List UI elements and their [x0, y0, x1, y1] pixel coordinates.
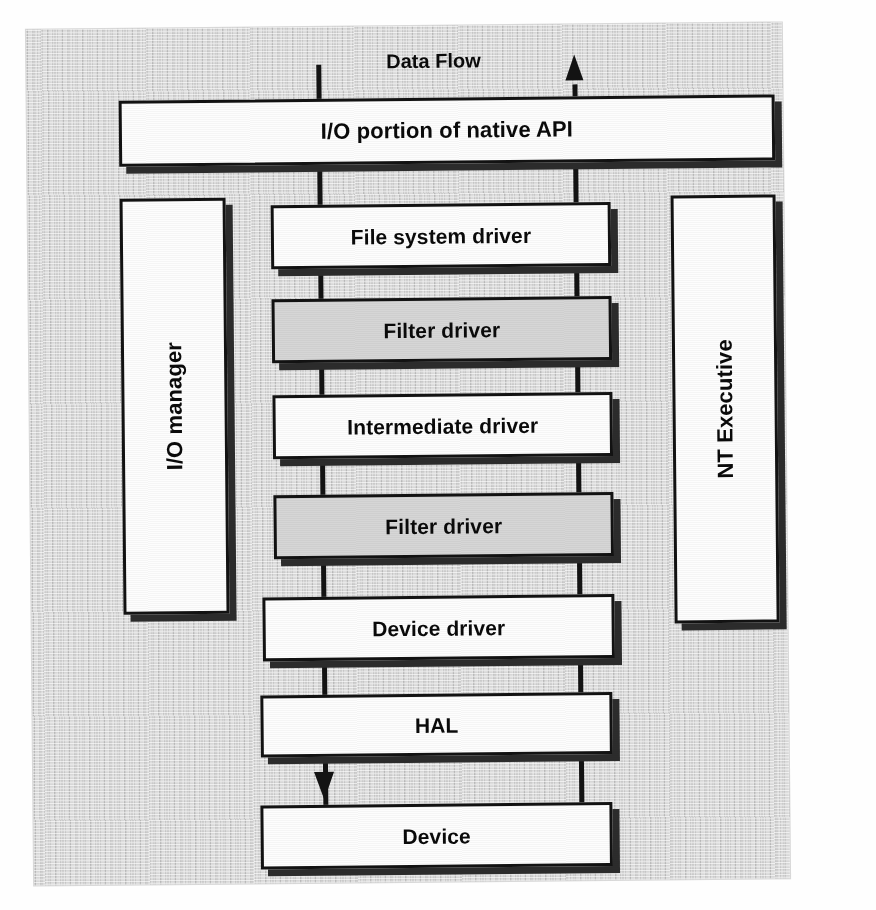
scanned-page: Data Flow I/O portion of native API I/O … [26, 22, 790, 885]
box-intermediate-driver[interactable]: Intermediate driver [272, 392, 613, 459]
data-flow-down-arrow-icon [314, 772, 334, 800]
box-device[interactable]: Device [260, 802, 613, 869]
diagram-layer: Data Flow I/O portion of native API I/O … [26, 22, 790, 885]
box-io-portion-native-api[interactable]: I/O portion of native API [119, 94, 776, 166]
box-label: Device [402, 825, 471, 847]
data-flow-caption: Data Flow [386, 49, 481, 73]
box-io-manager[interactable]: I/O manager [120, 198, 230, 615]
data-flow-up-arrow-icon [565, 54, 583, 80]
box-file-system-driver[interactable]: File system driver [271, 202, 612, 269]
box-label: Filter driver [383, 319, 500, 341]
box-filter-driver-upper[interactable]: Filter driver [272, 296, 613, 363]
box-label: File system driver [351, 224, 532, 247]
box-label: Intermediate driver [347, 414, 538, 437]
box-label: HAL [415, 714, 459, 735]
box-device-driver[interactable]: Device driver [262, 594, 615, 661]
box-label: NT Executive [713, 339, 736, 479]
box-label: Filter driver [385, 515, 502, 537]
box-filter-driver-lower[interactable]: Filter driver [273, 492, 614, 559]
box-label: Device driver [372, 617, 505, 639]
box-label: I/O portion of native API [321, 118, 573, 142]
box-label: I/O manager [163, 342, 186, 470]
box-nt-executive[interactable]: NT Executive [671, 194, 780, 623]
box-hal[interactable]: HAL [260, 692, 613, 757]
diagram-canvas: Data Flow I/O portion of native API I/O … [0, 0, 876, 910]
